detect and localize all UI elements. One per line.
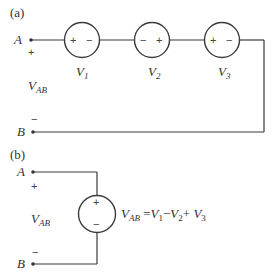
vab-minus-sign: − [31,113,37,125]
node-a-label-b: A [16,164,25,179]
source-v2-label: V2 [148,64,161,81]
vab-plus-sign: + [28,46,34,58]
terminal-b-b [31,262,35,266]
equivalent-equation: VAB =V1−V2+ V3 [121,206,206,223]
part-b-label: (b) [10,147,25,162]
terminal-a [29,38,33,42]
equivalent-source-plus: + [93,196,99,208]
source-v1-right-sign: − [86,34,92,46]
part-a-label: (a) [10,5,24,20]
source-v1-left-sign: + [70,34,76,46]
vab-label-b: VAB [31,211,50,228]
node-a-label: A [13,32,22,47]
vab-minus-sign-b: − [32,246,38,258]
vab-plus-sign-b: + [31,180,37,192]
source-v1: + − V1 [65,23,100,82]
source-v1-label: V1 [76,64,88,81]
equivalent-source-minus: − [93,218,99,230]
source-v2-left-sign: − [140,34,146,46]
source-v3-left-sign: + [210,34,216,46]
circuit-diagram: (a) A B + − VAB + − V1 − + V2 + − V3 (b)… [0,0,275,278]
source-v2-right-sign: + [156,34,162,46]
source-v3: + − V3 [205,23,240,82]
node-b-label-b: B [17,256,25,271]
source-v2: − + V2 [135,23,170,82]
terminal-a-b [31,170,35,174]
source-v3-right-sign: − [226,34,232,46]
node-b-label: B [17,124,25,139]
equivalent-source: + − [79,196,116,233]
terminal-b [31,130,35,134]
vab-label: VAB [28,78,47,95]
source-v3-label: V3 [218,64,231,81]
